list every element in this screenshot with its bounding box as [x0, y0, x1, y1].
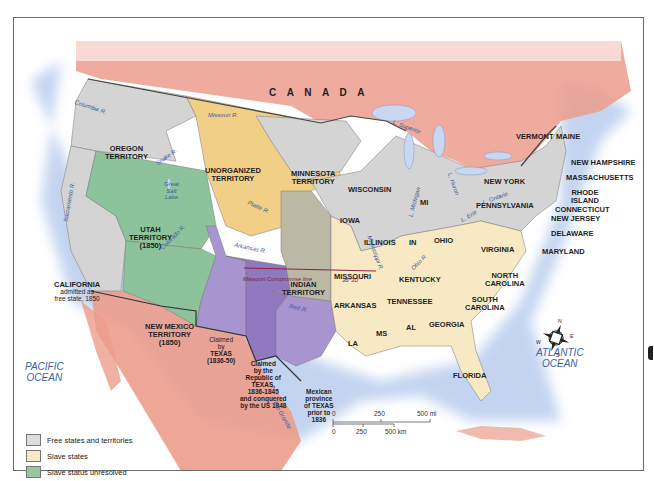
label-north-carolina: NORTHCAROLINA	[485, 272, 525, 288]
label-pacific-ocean: PACIFICOCEAN	[25, 361, 64, 383]
legend-item-free: Free states and territories	[26, 432, 132, 448]
label-virginia: VIRGINIA	[481, 246, 514, 254]
label-maine: MAINE	[556, 133, 580, 141]
label-south-carolina: SOUTHCAROLINA	[465, 296, 505, 312]
label-california: CALIFORNIAadmitted asfree state, 1850	[54, 281, 100, 302]
svg-text:E: E	[570, 333, 574, 339]
title-fragment	[215, 0, 435, 6]
label-florida: FLORIDA	[453, 372, 486, 380]
compass-rose-icon: N E S W	[536, 318, 576, 358]
page-edge-fragment	[648, 346, 653, 360]
legend-swatch-slave	[26, 450, 41, 462]
legend: Free states and territories Slave states…	[26, 432, 132, 480]
label-missouri-river: Missouri R.	[208, 111, 238, 119]
label-unorganized-territory: UNORGANIZEDTERRITORY	[205, 167, 261, 183]
svg-text:N: N	[558, 318, 562, 324]
label-new-york: NEW YORK	[484, 178, 525, 186]
label-kentucky: KENTUCKY	[399, 276, 441, 284]
svg-text:S: S	[556, 352, 560, 358]
label-canada: C A N A D A	[269, 89, 368, 97]
label-minnesota-territory: MINNESOTATERRITORY	[291, 170, 335, 186]
label-iowa: IOWA	[340, 217, 360, 225]
label-indiana: IN	[409, 239, 417, 247]
label-latitude-36-30: 36°30'	[342, 276, 359, 284]
label-texas-claimed: ClaimedbyTEXAS(1836-50)	[207, 336, 235, 364]
label-delaware: DELAWARE	[551, 230, 594, 238]
label-georgia: GEORGIA	[429, 321, 464, 329]
label-new-jersey: NEW JERSEY	[551, 215, 600, 223]
label-mississippi: MS	[376, 330, 387, 338]
label-connecticut: CONNECTICUT	[555, 206, 610, 214]
label-wisconsin: WISCONSIN	[348, 186, 391, 194]
legend-item-unresolved: Slave status unresolved	[26, 464, 132, 480]
label-great-salt-lake: GreatSaltLake	[164, 181, 179, 201]
svg-text:W: W	[536, 339, 541, 345]
label-ohio: OHIO	[434, 237, 453, 245]
label-texas-mexican-province: Mexicanprovinceof TEXASprior to1836	[304, 388, 334, 423]
label-arkansas: ARKANSAS	[334, 302, 377, 310]
label-new-mexico-territory: NEW MEXICOTERRITORY(1850)	[145, 323, 194, 347]
label-missouri-compromise-line: Missouri Compromise line	[243, 275, 312, 283]
label-louisiana: LA	[348, 340, 358, 348]
label-massachusetts: MASSACHUSETTS	[566, 174, 634, 182]
label-michigan: MI	[420, 199, 428, 207]
legend-item-slave: Slave states	[26, 448, 132, 464]
map-frame: C A N A D A M E X I C O C U B A B A H A …	[13, 17, 644, 471]
label-vermont: VERMONT	[516, 133, 554, 141]
label-rhode-island: RHODEISLAND	[571, 189, 599, 205]
label-maryland: MARYLAND	[542, 248, 585, 256]
label-tennessee: TENNESSEE	[387, 298, 432, 306]
scale-bar: 0 250 500 mi 0 250 500 km	[332, 410, 442, 450]
label-oregon-territory: OREGONTERRITORY	[105, 145, 148, 161]
legend-swatch-free	[26, 434, 41, 446]
label-indian-territory: INDIANTERRITORY	[282, 281, 325, 297]
label-new-hampshire: NEW HAMPSHIRE	[571, 159, 636, 167]
legend-swatch-unresolved	[26, 466, 41, 478]
label-alabama: AL	[406, 324, 416, 332]
